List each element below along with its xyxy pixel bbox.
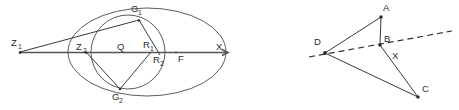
left-diagram-group: Z 1 Z 2 Q R 1 R 2 F [11,3,228,104]
label-q-base: Q [117,41,124,52]
segment-d-c [325,53,418,97]
vertex-dot-g1 [138,19,140,21]
geometry-figure-svg: Z 1 Z 2 Q R 1 R 2 F [0,0,459,110]
label-r1-base: R [143,39,150,50]
vertex-dot-a [379,15,382,18]
label-z1: Z 1 [11,37,22,50]
vertex-dot-z1 [19,51,22,54]
label-c: C [422,83,429,94]
vertex-dot-b [378,43,381,46]
label-z2-base: Z [76,41,82,52]
segment-g2-r1 [120,52,151,89]
label-b: B [384,33,390,44]
label-r2-sub: 2 [160,60,164,67]
label-z1-sub: 1 [18,43,22,50]
label-q: Q [117,41,124,52]
label-g1: G 1 [131,3,142,16]
segment-a-b [380,17,381,45]
focus-point-f [175,51,177,53]
label-z1-base: Z [11,37,17,48]
vertex-dot-c [416,95,419,98]
label-r2: R 2 [153,54,164,67]
figure-root: Z 1 Z 2 Q R 1 R 2 F [0,0,459,110]
label-f: F [178,53,184,64]
vertex-dot-g2 [119,88,121,90]
label-g2-sub: 2 [119,97,123,104]
label-z2-sub: 2 [83,47,87,54]
label-g1-sub: 1 [138,9,142,16]
label-d: D [314,36,321,47]
label-x-axis: X [216,41,223,52]
label-r2-base: R [153,54,160,65]
segment-b-c [380,45,418,97]
label-a: A [383,2,390,13]
label-r1-sub: 1 [150,45,154,52]
label-x-right: X [392,50,399,61]
label-r1: R 1 [143,39,154,52]
label-g2: G 2 [112,91,123,104]
segment-d-a [325,17,381,53]
right-diagram-group: A B C D X [309,2,452,99]
vertex-dot-d [323,51,327,55]
